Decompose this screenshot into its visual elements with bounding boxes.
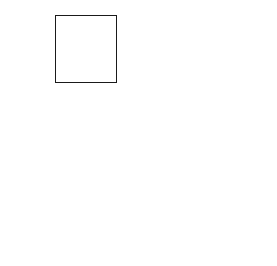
grid-frame [55,15,117,83]
